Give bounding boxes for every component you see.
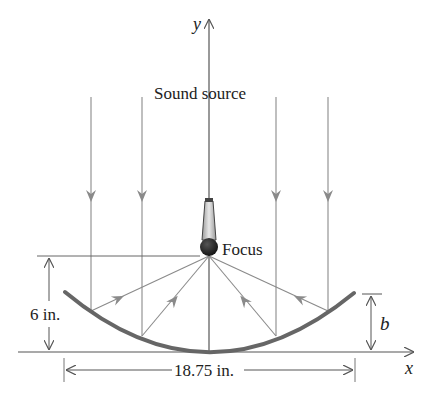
parabolic-reflector-diagram: x y Sound source Focu: [0, 0, 436, 401]
width-label: 18.75 in.: [174, 361, 234, 380]
height-b-label: b: [380, 313, 390, 334]
microphone-icon: [200, 198, 218, 256]
x-axis-label: x: [404, 358, 413, 378]
focus-label: Focus: [222, 240, 263, 259]
depth-label: 6 in.: [30, 305, 60, 324]
sound-source-label: Sound source: [154, 84, 246, 103]
focus-point: [200, 238, 218, 256]
y-axis-label: y: [191, 14, 201, 34]
height-b-dimension: [362, 294, 382, 350]
